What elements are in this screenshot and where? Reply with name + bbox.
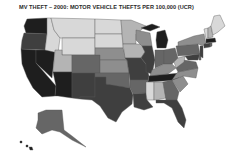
state-hi <box>20 141 33 150</box>
state-wi <box>136 30 152 46</box>
state-ri <box>210 43 212 47</box>
state-ia <box>123 44 145 58</box>
state-ak <box>36 110 86 147</box>
state-regions <box>20 15 225 150</box>
state-or <box>21 33 47 50</box>
state-ks <box>100 60 129 73</box>
state-ms <box>146 82 154 100</box>
state-wa <box>24 18 47 34</box>
state-ny <box>178 34 206 46</box>
state-az <box>53 72 72 98</box>
state-ar <box>130 80 148 94</box>
state-ct <box>204 43 210 48</box>
us-choropleth-map <box>0 0 245 159</box>
state-nj <box>200 46 203 58</box>
state-mt <box>51 18 95 38</box>
state-fl <box>156 100 186 128</box>
state-nd <box>95 19 122 34</box>
state-ne <box>95 48 127 60</box>
state-wy <box>62 38 95 55</box>
state-me <box>211 15 225 35</box>
state-sd <box>95 34 123 48</box>
state-co <box>72 55 100 73</box>
state-ma <box>206 38 216 43</box>
state-nm <box>72 73 95 99</box>
